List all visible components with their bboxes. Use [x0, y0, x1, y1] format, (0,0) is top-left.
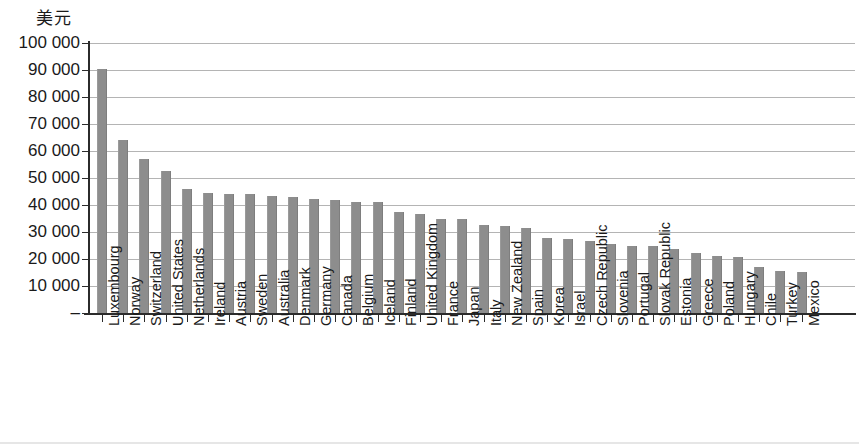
x-axis-tick-label: New Zealand — [510, 241, 525, 326]
x-axis-tick — [356, 315, 357, 322]
y-axis-tick — [82, 286, 90, 287]
x-axis-tick — [590, 315, 591, 322]
x-axis-tick-label: Switzerland — [149, 251, 164, 326]
x-axis-tick — [250, 315, 251, 322]
x-axis-tick — [166, 315, 167, 322]
x-axis-tick — [780, 315, 781, 322]
y-axis-tick — [82, 259, 90, 260]
y-axis-tick-label: – — [0, 304, 80, 321]
gridline — [89, 124, 855, 125]
bar-chart: 美元 100 00090 00080 00070 00060 00050 000… — [0, 0, 859, 444]
x-axis-tick-label: France — [446, 281, 461, 326]
x-axis-tick — [272, 315, 273, 322]
x-axis-tick — [314, 315, 315, 322]
x-axis-tick — [674, 315, 675, 322]
x-axis-tick — [229, 315, 230, 322]
x-axis-tick — [420, 315, 421, 322]
x-axis-tick-label: Luxembourg — [107, 245, 122, 326]
x-axis-tick-label: Turkey — [785, 282, 800, 326]
y-axis-tick — [82, 97, 90, 98]
x-axis-tick — [335, 315, 336, 322]
x-axis-tick-label: United States — [171, 239, 186, 326]
x-axis-tick-label: United Kingdom — [425, 223, 440, 326]
x-axis-tick — [505, 315, 506, 322]
x-axis-tick-label: Israel — [573, 291, 588, 326]
y-axis-tick — [82, 313, 90, 314]
x-axis-tick — [441, 315, 442, 322]
y-axis-tick-label: 10 000 — [0, 277, 80, 294]
x-axis-tick — [547, 315, 548, 322]
y-axis-tick-label: 100 000 — [0, 34, 80, 51]
x-axis-tick-label: Czech Republic — [595, 224, 610, 326]
x-axis-tick-label: Denmark — [298, 267, 313, 326]
x-axis-tick-label: Greece — [701, 278, 716, 326]
x-axis-tick — [632, 315, 633, 322]
x-axis-tick-label: Norway — [128, 277, 143, 326]
y-axis-tick-label: 80 000 — [0, 88, 80, 105]
x-axis-tick-label: Italy — [489, 299, 504, 326]
x-axis-tick-label: Iceland — [383, 279, 398, 326]
gridline — [89, 97, 855, 98]
y-axis-tick-labels: 100 00090 00080 00070 00060 00050 00040 … — [0, 0, 80, 444]
y-axis-tick-label: 40 000 — [0, 196, 80, 213]
gridline — [89, 43, 855, 44]
x-axis-tick-label: Poland — [722, 281, 737, 326]
x-axis-tick — [187, 315, 188, 322]
x-axis-tick — [759, 315, 760, 322]
x-axis-tick-label: Finland — [404, 278, 419, 326]
x-axis-tick-label: Mexico — [807, 280, 822, 326]
x-axis-tick-label: Sweden — [255, 274, 270, 326]
y-axis-tick — [82, 124, 90, 125]
y-axis-tick — [82, 178, 90, 179]
y-axis-tick-label: 30 000 — [0, 223, 80, 240]
x-axis-tick — [653, 315, 654, 322]
y-axis-tick — [82, 205, 90, 206]
gridline — [89, 151, 855, 152]
y-axis-tick-label: 50 000 — [0, 169, 80, 186]
x-axis-tick — [293, 315, 294, 322]
x-axis-tick-label: Canada — [340, 275, 355, 326]
x-axis-tick — [102, 315, 103, 322]
gridline — [89, 178, 855, 179]
x-axis-tick-label: Spain — [531, 289, 546, 326]
x-axis-tick — [611, 315, 612, 322]
y-axis-tick — [82, 232, 90, 233]
x-axis-tick-label: Slovak Republic — [658, 222, 673, 326]
y-axis-tick-label: 60 000 — [0, 142, 80, 159]
y-axis-tick — [82, 43, 90, 44]
x-axis-tick — [123, 315, 124, 322]
x-axis-tick-label: Japan — [467, 286, 482, 326]
x-axis-tick-label: Austria — [234, 281, 249, 326]
y-axis-tick — [82, 151, 90, 152]
x-axis-tick-label: Germany — [319, 266, 334, 326]
x-axis-tick — [208, 315, 209, 322]
x-axis-tick-label: Estonia — [679, 278, 694, 326]
x-axis-tick — [144, 315, 145, 322]
x-axis-tick — [462, 315, 463, 322]
x-axis-tick — [399, 315, 400, 322]
y-axis-tick-label: 20 000 — [0, 250, 80, 267]
gridline — [89, 70, 855, 71]
x-axis-tick-label: Ireland — [213, 282, 228, 326]
x-axis-tick-label: Australia — [277, 270, 292, 326]
x-axis-tick — [526, 315, 527, 322]
x-axis-tick — [568, 315, 569, 322]
x-axis-tick — [484, 315, 485, 322]
y-axis-tick-label: 70 000 — [0, 115, 80, 132]
x-axis-tick — [738, 315, 739, 322]
x-axis-tick-label: Hungary — [743, 271, 758, 326]
x-axis-tick-label: Chile — [764, 293, 779, 326]
x-axis-tick-label: Slovenia — [616, 270, 631, 326]
x-axis-tick-label: Korea — [552, 287, 567, 326]
x-axis-tick — [717, 315, 718, 322]
x-axis-tick — [378, 315, 379, 322]
y-axis-tick — [82, 70, 90, 71]
x-axis-tick-label: Portugal — [637, 272, 652, 326]
y-axis-tick-label: 90 000 — [0, 61, 80, 78]
x-axis-tick — [696, 315, 697, 322]
x-axis-tick — [802, 315, 803, 322]
x-axis-tick-label: Belgium — [361, 274, 376, 326]
x-axis-tick-label: Netherlands — [192, 248, 207, 326]
